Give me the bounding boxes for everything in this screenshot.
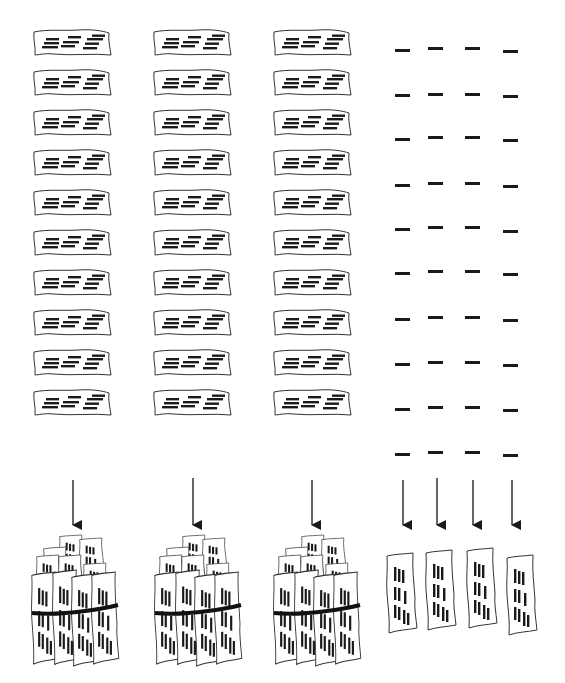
dash-row	[395, 270, 518, 276]
vertical-strip	[426, 550, 456, 630]
dash-row	[395, 136, 518, 142]
strip-grid	[34, 30, 351, 415]
dash-row	[395, 93, 518, 98]
dash-row	[395, 182, 518, 188]
strip-bundle	[32, 535, 119, 666]
dash-row	[395, 406, 518, 412]
dash-row	[395, 361, 518, 367]
diagram-canvas	[0, 0, 565, 683]
dash-row	[395, 451, 518, 457]
strip-column-1	[34, 30, 111, 415]
strip-bundle	[155, 535, 242, 666]
dash-row	[395, 226, 518, 233]
dash-grid	[395, 47, 518, 457]
single-vertical-strips	[387, 548, 537, 635]
bundles	[32, 535, 361, 666]
arrows	[73, 478, 512, 525]
vertical-strip	[507, 555, 537, 635]
vertical-strip	[467, 548, 497, 628]
strip-column-2	[154, 30, 231, 415]
strip-column-3	[274, 30, 351, 415]
vertical-strip	[387, 553, 417, 633]
strip-bundle	[274, 535, 361, 666]
dash-row	[395, 47, 518, 53]
dash-row	[395, 316, 518, 322]
